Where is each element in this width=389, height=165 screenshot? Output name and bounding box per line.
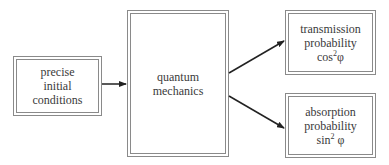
arrow-qm-to-absorption xyxy=(229,96,284,128)
arrow-qm-to-transmission xyxy=(229,41,284,73)
arrows-layer xyxy=(0,0,389,165)
